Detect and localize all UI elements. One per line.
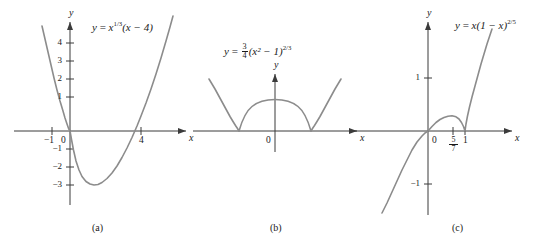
equation-a: y = x1/3(x − 4) bbox=[92, 22, 153, 33]
x-ticklabel-1-c: 1 bbox=[463, 136, 468, 146]
panel-a-graph: y x 4 3 2 1 −1 −2 −3 −1 0 4 y = x1/3(x −… bbox=[0, 0, 200, 247]
origin-label-c: 0 bbox=[432, 136, 437, 146]
y-axis-arrowhead-c bbox=[425, 22, 431, 30]
equation-b-coefficient-fraction: 34 bbox=[242, 43, 248, 61]
y-axis-label-c: y bbox=[427, 8, 431, 18]
equation-b-coefficient-numerator: 3 bbox=[242, 43, 248, 52]
equation-b-exponent: 2/3 bbox=[283, 44, 292, 51]
y-ticklabel-neg3-a: −3 bbox=[44, 180, 62, 189]
y-axis-label-a: y bbox=[69, 8, 73, 18]
y-ticklabel-3-a: 3 bbox=[50, 56, 62, 65]
y-axis-arrowhead-a bbox=[67, 22, 73, 30]
equation-c-eq: = bbox=[463, 19, 469, 31]
equation-c-lhs: y bbox=[455, 19, 460, 31]
equation-b-lhs: y bbox=[224, 45, 229, 57]
caption-c: (c) bbox=[452, 222, 463, 233]
x-ticklabel-4-a: 4 bbox=[139, 136, 144, 146]
equation-b-coefficient-denominator: 4 bbox=[242, 51, 248, 61]
x-ticklabel-5over7-numerator: 5 bbox=[449, 136, 458, 144]
equation-b-eq: = bbox=[232, 45, 238, 57]
equation-a-exponent: 1/3 bbox=[114, 20, 123, 27]
curve-b-left-branch bbox=[209, 79, 239, 131]
x-axis-label-c: x bbox=[515, 133, 519, 143]
equation-a-factor: (x − 4) bbox=[122, 21, 153, 33]
equation-a-eq: = bbox=[100, 21, 106, 33]
equation-c-exponent: 2/5 bbox=[507, 18, 516, 25]
curve-c bbox=[382, 29, 492, 213]
caption-b: (b) bbox=[270, 222, 282, 233]
origin-label-a: 0 bbox=[61, 136, 66, 146]
x-ticklabel-5over7-denominator: 7 bbox=[449, 144, 458, 153]
panel-b-plot bbox=[185, 0, 365, 247]
equation-c-factor: x(1 − x) bbox=[472, 19, 508, 31]
curve-b-right-branch bbox=[311, 79, 341, 131]
x-axis-arrowhead-c bbox=[504, 128, 512, 134]
y-ticklabel-2-a: 2 bbox=[50, 74, 62, 83]
panel-c-plot bbox=[360, 0, 545, 247]
equation-c: y = x(1 − x)2/5 bbox=[455, 20, 516, 31]
origin-label-b: 0 bbox=[266, 136, 271, 146]
y-ticklabel-neg1-c: −1 bbox=[402, 179, 420, 188]
y-axis-arrowhead-b bbox=[272, 74, 278, 82]
x-ticklabel-5over7-c: 5 7 bbox=[449, 136, 458, 154]
caption-a: (a) bbox=[92, 222, 103, 233]
y-ticklabel-1-a: 1 bbox=[50, 92, 62, 101]
y-axis-label-b: y bbox=[274, 60, 278, 70]
three-panel-graph-figure: y x 4 3 2 1 −1 −2 −3 −1 0 4 y = x1/3(x −… bbox=[0, 0, 545, 247]
equation-b-base: (x² − 1) bbox=[249, 45, 283, 57]
panel-c-graph: y x 1 −1 0 5 7 1 y = x(1 − x)2/5 (c) bbox=[360, 0, 545, 247]
y-ticklabel-1-c: 1 bbox=[408, 73, 420, 82]
x-ticklabel-neg1-a: −1 bbox=[44, 136, 54, 146]
y-ticklabel-4-a: 4 bbox=[50, 38, 62, 47]
equation-b: y = 34(x² − 1)2/3 bbox=[224, 43, 291, 61]
panel-a-plot bbox=[0, 0, 200, 247]
y-ticklabel-neg2-a: −2 bbox=[44, 162, 62, 171]
panel-b-graph: y x 0 y = 34(x² − 1)2/3 (b) bbox=[185, 0, 365, 247]
